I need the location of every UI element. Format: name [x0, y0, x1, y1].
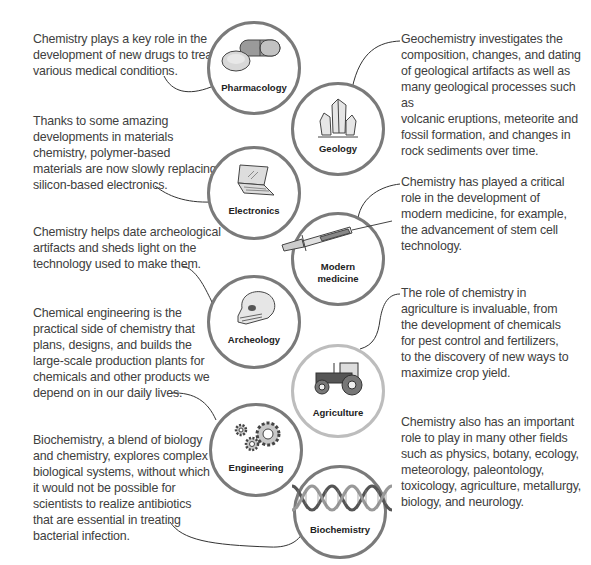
node-geology: Geology — [291, 82, 385, 176]
node-label-line2: medicine — [294, 273, 382, 285]
node-pharmacology: Pharmacology — [207, 21, 301, 115]
description-modern-medicine: Chemistry has played a critical role in … — [401, 174, 567, 254]
description-engineering: Chemical engineering is the practical si… — [33, 305, 210, 401]
node-modern-medicine: Modern medicine — [291, 212, 385, 306]
node-label: Pharmacology — [210, 82, 298, 94]
node-archeology: Archeology — [207, 275, 301, 369]
node-label-line1: Modern — [294, 261, 382, 273]
node-label: Engineering — [212, 462, 300, 474]
pill-capsule-icon — [220, 36, 284, 76]
node-label: Archeology — [210, 334, 298, 346]
node-label: Geology — [294, 143, 382, 155]
connector-geology — [352, 41, 400, 89]
node-engineering: Engineering — [209, 403, 303, 497]
connector-modern-medicine — [358, 184, 400, 218]
node-label: Biochemistry — [296, 524, 384, 536]
laptop-icon — [234, 163, 278, 199]
description-other-fields: Chemistry also has an important role to … — [401, 414, 581, 510]
connector-agriculture — [360, 294, 400, 349]
syringe-icon — [280, 219, 400, 255]
description-archeology: Chemistry helps date archeological artif… — [33, 224, 221, 272]
description-electronics: Thanks to some amazing developments in m… — [33, 113, 217, 193]
description-biochemistry: Biochemistry, a blend of biology and che… — [33, 432, 210, 544]
node-agriculture: Agriculture — [291, 344, 385, 438]
node-biochemistry: Biochemistry — [293, 465, 387, 559]
node-label: Electronics — [210, 205, 298, 217]
gears-icon — [232, 418, 284, 454]
node-label: Agriculture — [294, 407, 382, 419]
crystal-icon — [316, 97, 360, 141]
dna-helix-icon — [292, 482, 392, 514]
skull-icon — [232, 290, 278, 328]
description-pharmacology: Chemistry plays a key role in the develo… — [33, 31, 215, 79]
tractor-icon — [310, 361, 368, 397]
description-geology: Geochemistry investigates the compositio… — [401, 31, 591, 159]
description-agriculture: The role of chemistry in agriculture is … — [401, 285, 569, 381]
